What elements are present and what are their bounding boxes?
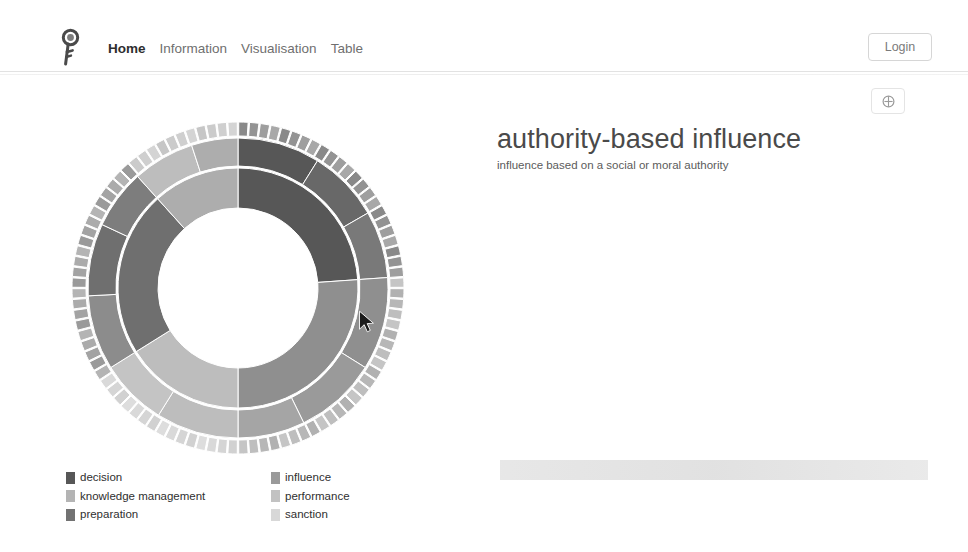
sunburst-segment[interactable] [228, 122, 237, 136]
sunburst-segment[interactable] [192, 138, 238, 172]
key-logo-icon[interactable] [52, 28, 86, 66]
sunburst-segment[interactable] [74, 256, 89, 267]
sunburst-segment[interactable] [228, 440, 237, 454]
nav-link-home[interactable]: Home [108, 41, 146, 56]
nav-links: Home Information Visualisation Table [108, 41, 363, 56]
legend-label: knowledge management [80, 489, 205, 505]
sunburst-segment[interactable] [217, 122, 227, 137]
background-artifact-bar [500, 460, 928, 480]
sunburst-segment[interactable] [239, 440, 248, 454]
page-subtitle: influence based on a social or moral aut… [497, 159, 801, 173]
legend-label: decision [80, 470, 122, 486]
legend-item-preparation[interactable]: preparation [66, 507, 271, 523]
sunburst-segment[interactable] [258, 124, 269, 139]
legend-item-decision[interactable]: decision [66, 470, 271, 486]
legend-label: performance [285, 489, 350, 505]
sunburst-segment[interactable] [387, 308, 402, 319]
sunburst-svg[interactable] [58, 110, 418, 466]
help-toggle-icon [882, 95, 895, 108]
sunburst-segment[interactable] [72, 299, 87, 309]
legend-item-sanction[interactable]: sanction [271, 507, 476, 523]
legend-swatch-icon [66, 509, 75, 521]
nav-link-visualisation[interactable]: Visualisation [241, 41, 317, 56]
sunburst-segment[interactable] [239, 122, 248, 136]
sunburst-segment[interactable] [390, 289, 404, 298]
help-toggle-button[interactable] [871, 88, 905, 114]
nav-link-table[interactable]: Table [331, 41, 363, 56]
legend-item-influence[interactable]: influence [271, 470, 476, 486]
sunburst-segment[interactable] [217, 439, 227, 454]
sunburst-segment[interactable] [249, 439, 259, 454]
legend-swatch-icon [66, 490, 75, 502]
sunburst-segment[interactable] [72, 289, 86, 298]
legend-swatch-icon [271, 490, 280, 502]
legend-swatch-icon [271, 472, 280, 484]
sunburst-segment[interactable] [74, 308, 89, 319]
sunburst-segment[interactable] [249, 122, 259, 137]
login-button[interactable]: Login [868, 33, 932, 61]
sunburst-segment[interactable] [387, 256, 402, 267]
legend-label: preparation [80, 507, 138, 523]
legend-label: sanction [285, 507, 328, 523]
navbar-divider [0, 74, 968, 75]
sunburst-segment[interactable] [72, 278, 86, 287]
nav-link-information[interactable]: Information [160, 41, 228, 56]
legend-swatch-icon [271, 509, 280, 521]
legend-item-knowledge-management[interactable]: knowledge management [66, 489, 271, 505]
sunburst-segment[interactable] [389, 299, 404, 309]
page-title: authority-based influence [497, 124, 801, 155]
sunburst-segment[interactable] [206, 437, 217, 452]
sunburst-segment[interactable] [389, 267, 404, 277]
sunburst-chart[interactable] [58, 110, 418, 466]
sunburst-segment[interactable] [72, 267, 87, 277]
sunburst-segment[interactable] [258, 437, 269, 452]
chart-legend: decision influence knowledge management … [66, 470, 396, 523]
legend-label: influence [285, 470, 331, 486]
sunburst-segment[interactable] [206, 124, 217, 139]
top-navbar: Home Information Visualisation Table Log… [0, 0, 968, 72]
legend-item-performance[interactable]: performance [271, 489, 476, 505]
title-block: authority-based influence influence base… [497, 124, 801, 173]
sunburst-segment[interactable] [390, 278, 404, 287]
legend-swatch-icon [66, 472, 75, 484]
